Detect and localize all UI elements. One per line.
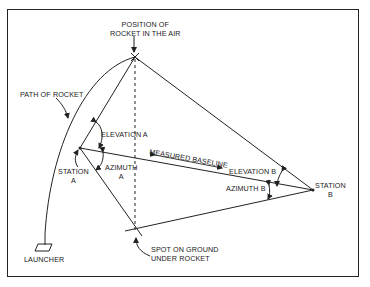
label-azimuth-b: AZIMUTH B xyxy=(226,185,266,194)
label-station-a: STATION A xyxy=(58,168,89,185)
line-spot-to-station-b xyxy=(125,190,313,231)
line-rocket-to-station-b xyxy=(135,57,313,190)
label-azimuth-a-line2: A xyxy=(105,173,138,182)
triangulation-diagram xyxy=(0,0,370,287)
label-station-b-line2: B xyxy=(315,191,346,200)
label-elevation-b: ELEVATION B xyxy=(229,168,276,177)
label-rocket-position: POSITION OF ROCKET IN THE AIR xyxy=(110,21,181,38)
label-spot-line2: UNDER ROCKET xyxy=(151,255,219,264)
label-rocket-position-line2: ROCKET IN THE AIR xyxy=(110,30,181,39)
label-station-a-line2: A xyxy=(58,177,89,186)
label-launcher: LAUNCHER xyxy=(24,256,64,265)
launcher-base xyxy=(35,244,52,251)
label-station-b: STATION B xyxy=(315,182,346,199)
label-path-of-rocket: PATH OF ROCKET xyxy=(20,91,83,100)
label-elevation-a: ELEVATION A xyxy=(101,131,148,140)
line-station-a-to-spot xyxy=(80,148,142,236)
label-spot-on-ground: SPOT ON GROUND UNDER ROCKET xyxy=(151,246,219,263)
label-azimuth-a: AZIMUTH A xyxy=(105,164,138,181)
